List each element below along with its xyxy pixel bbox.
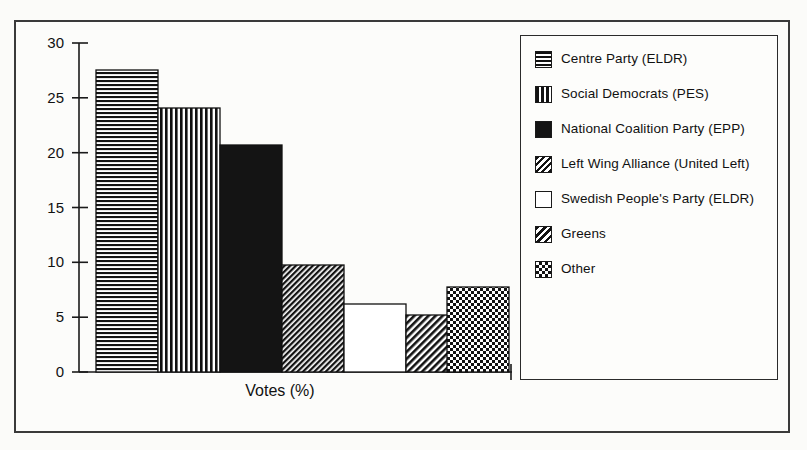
bar-social-democrats bbox=[158, 108, 220, 372]
legend-item-other: Other bbox=[535, 260, 767, 278]
bars-group bbox=[96, 70, 509, 372]
legend-item-greens: Greens bbox=[535, 225, 767, 243]
legend-item-national-coalition-party: National Coalition Party (EPP) bbox=[535, 120, 767, 138]
legend-swatch-vertical-stripes-icon bbox=[535, 86, 552, 103]
y-axis bbox=[72, 43, 88, 372]
legend-label-other: Other bbox=[561, 260, 595, 277]
figure-root: 30 25 20 15 10 5 0 Votes (%) Centre Part… bbox=[0, 0, 807, 450]
bar-national-coalition-party bbox=[220, 145, 282, 372]
legend-label-left-wing-alliance: Left Wing Alliance (United Left) bbox=[561, 155, 750, 172]
legend-label-social-democrats: Social Democrats (PES) bbox=[561, 85, 709, 102]
legend-swatch-diagonal-hatch-dense-icon bbox=[535, 156, 552, 173]
legend-swatch-horizontal-stripes-icon bbox=[535, 51, 552, 68]
x-axis-title: Votes (%) bbox=[150, 382, 410, 400]
legend-item-swedish-peoples-party: Swedish People's Party (ELDR) bbox=[535, 190, 767, 208]
bar-other bbox=[447, 287, 509, 372]
legend-swatch-solid-black-icon bbox=[535, 121, 552, 138]
chart-legend: Centre Party (ELDR) Social Democrats (PE… bbox=[520, 35, 778, 380]
legend-item-centre-party: Centre Party (ELDR) bbox=[535, 50, 767, 68]
legend-item-left-wing-alliance: Left Wing Alliance (United Left) bbox=[535, 155, 767, 173]
y-tick-label-5: 5 bbox=[28, 308, 64, 325]
legend-swatch-diagonal-hatch-icon bbox=[535, 226, 552, 243]
y-tick-label-0: 0 bbox=[28, 363, 64, 380]
y-tick-label-20: 20 bbox=[28, 144, 64, 161]
bar-left-wing-alliance bbox=[282, 265, 344, 372]
legend-label-swedish-peoples-party: Swedish People's Party (ELDR) bbox=[561, 190, 754, 207]
legend-label-greens: Greens bbox=[561, 225, 606, 242]
y-tick-label-10: 10 bbox=[28, 253, 64, 270]
legend-swatch-white-blank-icon bbox=[535, 191, 552, 208]
legend-item-social-democrats: Social Democrats (PES) bbox=[535, 85, 767, 103]
legend-swatch-checkerboard-icon bbox=[535, 261, 552, 278]
y-tick-label-30: 30 bbox=[28, 34, 64, 51]
legend-label-centre-party: Centre Party (ELDR) bbox=[561, 50, 687, 67]
bar-swedish-peoples-party bbox=[344, 304, 406, 372]
bar-centre-party bbox=[96, 70, 158, 372]
y-tick-label-25: 25 bbox=[28, 89, 64, 106]
y-tick-label-15: 15 bbox=[28, 199, 64, 216]
legend-label-national-coalition-party: National Coalition Party (EPP) bbox=[561, 120, 745, 137]
